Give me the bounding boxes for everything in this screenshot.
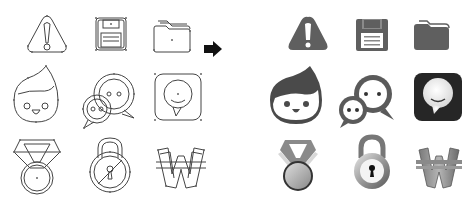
face-icon [270,66,322,124]
save-icon [356,19,388,51]
messenger-icon [414,73,462,121]
warning-icon [289,17,328,50]
medal-icon [278,140,318,191]
folder-icon [414,21,449,50]
won-icon [416,148,462,188]
lock-icon [354,137,390,189]
chat-icon [339,75,394,128]
